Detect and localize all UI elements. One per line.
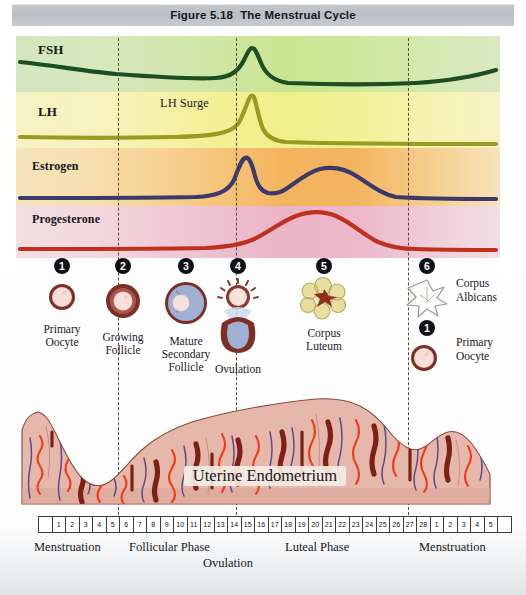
stage-corpus-albicans: 6 Corpus Albicans [404,258,497,323]
day-cell-14: 14 [228,517,242,532]
stage-badge-4: 4 [230,258,246,274]
stage-badge-1: 1 [54,258,70,274]
stage-badge-2: 2 [115,258,131,274]
day-cell-19: 19 [296,517,310,532]
day-cell-26: 26 [390,517,404,532]
corpus-albicans-icon [404,277,450,319]
day-cell-11: 11 [188,517,202,532]
curve-fsh [20,48,496,85]
stage-label-1-repeat: Primary Oocyte [456,336,493,362]
stage-badge-3: 3 [178,258,194,274]
phase-label-follicular: Follicular Phase [129,540,210,555]
curve-lh [20,96,496,145]
day-cell-1: 1 [431,517,445,532]
day-cell-27: 27 [404,517,418,532]
figure-title-text: The Menstrual Cycle [240,9,356,21]
day-cell-21: 21 [323,517,337,532]
hormone-label-estrogen: Estrogen [32,159,79,174]
day-cell-4: 4 [93,517,107,532]
mature-secondary-follicle-icon [159,277,213,329]
uterine-endometrium-diagram: Uterine Endometrium [16,392,506,518]
phase-label-menstruation-2: Menstruation [419,540,486,555]
day-cell-blank [498,517,511,532]
day-cell-2: 2 [66,517,80,532]
stage-label-4: Ovulation [206,363,270,376]
day-cell-28: 28 [417,517,431,532]
stage-primary-oocyte-repeat: 1 Primary Oocyte [404,320,493,379]
day-cell-4: 4 [471,517,485,532]
day-cell-23: 23 [350,517,364,532]
day-cell-10: 10 [174,517,188,532]
day-cell-2: 2 [444,517,458,532]
day-cell-24: 24 [363,517,377,532]
corpus-luteum-icon [298,277,350,321]
day-cell-3: 3 [458,517,472,532]
phase-label-luteal: Luteal Phase [285,540,349,555]
figure-page: Figure 5.18The Menstrual Cycle FSH LH Es… [0,0,526,595]
day-cell-25: 25 [377,517,391,532]
day-scale: 1234567891011121314151617181920212223242… [38,516,512,533]
hormone-label-progesterone: Progesterone [32,212,100,227]
day-cell-3: 3 [80,517,94,532]
day-cell-20: 20 [309,517,323,532]
phase-label-menstruation-1: Menstruation [34,540,101,555]
day-cell-17: 17 [269,517,283,532]
endometrium-label: Uterine Endometrium [193,466,338,485]
stage-badge-1-repeat: 1 [419,320,435,336]
day-cell-9: 9 [161,517,175,532]
stage-ovulation: 4 Ovulation [206,258,270,376]
ovulation-axis-label: Ovulation [203,556,253,571]
follicle-stage-row: 1 Primary Oocyte 2 Growing Follicle [0,258,526,390]
day-cell-7: 7 [134,517,148,532]
hormone-label-lh: LH [38,104,57,120]
day-cell-18: 18 [282,517,296,532]
stage-primary-oocyte: 1 Primary Oocyte [30,258,94,349]
primary-oocyte-icon [42,277,82,317]
figure-number: Figure 5.18 [170,9,233,21]
day-cell-6: 6 [120,517,134,532]
figure-title-bar: Figure 5.18The Menstrual Cycle [12,4,514,26]
page-title: Figure 5.18The Menstrual Cycle [170,9,356,21]
ovulation-icon [210,277,266,355]
hormone-label-fsh: FSH [38,42,64,58]
stage-badge-6: 6 [419,258,435,274]
curve-estrogen [20,158,496,199]
stage-label-1: Primary Oocyte [30,323,94,349]
stage-corpus-luteum: 5 Corpus Luteum [288,258,360,353]
day-cell-5: 5 [485,517,499,532]
day-cell-5: 5 [107,517,121,532]
growing-follicle-icon [99,277,147,325]
lh-surge-annotation: LH Surge [160,96,209,111]
stage-badge-5: 5 [316,258,332,274]
day-cell-22: 22 [336,517,350,532]
day-cell-8: 8 [147,517,161,532]
day-cell-12: 12 [201,517,215,532]
primary-oocyte-repeat-icon [404,339,444,375]
hormone-chart: FSH LH Estrogen Progesterone LH Surge [16,36,500,258]
day-cell-blank [39,517,53,532]
day-cell-1: 1 [53,517,67,532]
stage-label-6: Corpus Albicans [456,277,497,303]
day-cell-13: 13 [215,517,229,532]
day-cell-16: 16 [255,517,269,532]
day-cell-15: 15 [242,517,256,532]
stage-label-5: Corpus Luteum [288,327,360,353]
